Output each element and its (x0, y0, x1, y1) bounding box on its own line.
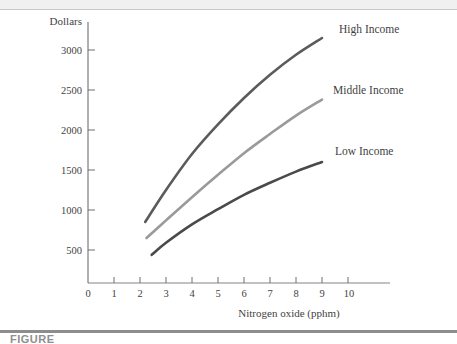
x-tick-label-0: 0 (85, 288, 90, 299)
series-label-high-income: High Income (339, 23, 399, 36)
x-tick-label-10: 10 (344, 288, 355, 299)
y-tick-marks (88, 50, 95, 250)
series-line-high-income (145, 38, 322, 222)
x-tick-label-3: 3 (163, 288, 168, 299)
x-tick-label-1: 1 (111, 288, 116, 299)
caption-band (0, 333, 457, 344)
y-tick-label-2000: 2000 (61, 125, 82, 136)
series-label-middle-income: Middle Income (333, 84, 404, 96)
x-tick-label-7: 7 (267, 288, 272, 299)
figure-caption: FIGURE (10, 333, 55, 344)
x-axis-title: Nitrogen oxide (pphm) (238, 307, 340, 320)
y-tick-label-2500: 2500 (61, 85, 82, 96)
x-tick-label-4: 4 (189, 288, 195, 299)
line-chart: 3000 2500 2000 1500 1000 500 Dollars 0 1… (0, 0, 457, 330)
y-tick-label-500: 500 (66, 245, 82, 256)
x-tick-label-5: 5 (215, 288, 220, 299)
y-axis-title: Dollars (50, 15, 82, 27)
y-tick-label-1500: 1500 (61, 165, 82, 176)
x-tick-label-6: 6 (241, 288, 246, 299)
series-label-low-income: Low Income (335, 145, 393, 157)
series-line-middle-income (147, 100, 323, 238)
y-tick-label-1000: 1000 (61, 205, 82, 216)
x-tick-label-8: 8 (293, 288, 298, 299)
y-tick-label-3000: 3000 (61, 45, 82, 56)
x-tick-label-2: 2 (137, 288, 142, 299)
x-tick-marks (114, 277, 348, 283)
figure-page: 3000 2500 2000 1500 1000 500 Dollars 0 1… (0, 0, 457, 344)
x-tick-label-9: 9 (319, 288, 324, 299)
